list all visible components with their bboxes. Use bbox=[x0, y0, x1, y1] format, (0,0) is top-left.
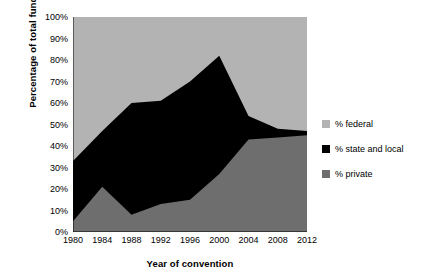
chart-legend: % federal% state and local% private bbox=[322, 114, 434, 189]
y-tick-label: 10% bbox=[28, 206, 68, 215]
stacked-area-svg bbox=[73, 17, 307, 232]
y-tick-label: 60% bbox=[28, 99, 68, 108]
legend-swatch-icon bbox=[322, 145, 330, 153]
y-tick-label: 80% bbox=[28, 56, 68, 65]
y-tick-label: 50% bbox=[28, 120, 68, 129]
legend-item[interactable]: % private bbox=[322, 164, 434, 184]
x-axis-title: Year of convention bbox=[73, 258, 307, 269]
x-tick-label: 2012 bbox=[287, 236, 327, 245]
x-axis-tick-labels: 198019841988199219962000200420082012 bbox=[0, 236, 440, 252]
legend-label: % private bbox=[335, 169, 373, 179]
y-tick-label: 90% bbox=[28, 34, 68, 43]
y-tick-label: 20% bbox=[28, 185, 68, 194]
area-chart: Percentage of total funds 0%10%20%30%40%… bbox=[0, 0, 440, 280]
legend-item[interactable]: % state and local bbox=[322, 139, 434, 159]
plot-area bbox=[73, 17, 307, 232]
y-tick-label: 100% bbox=[28, 13, 68, 22]
y-tick-label: 30% bbox=[28, 163, 68, 172]
y-tick-label: 40% bbox=[28, 142, 68, 151]
legend-swatch-icon bbox=[322, 120, 330, 128]
legend-item[interactable]: % federal bbox=[322, 114, 434, 134]
y-tick-label: 70% bbox=[28, 77, 68, 86]
legend-label: % federal bbox=[335, 119, 373, 129]
legend-label: % state and local bbox=[335, 144, 404, 154]
series-layers bbox=[73, 17, 307, 232]
legend-swatch-icon bbox=[322, 170, 330, 178]
